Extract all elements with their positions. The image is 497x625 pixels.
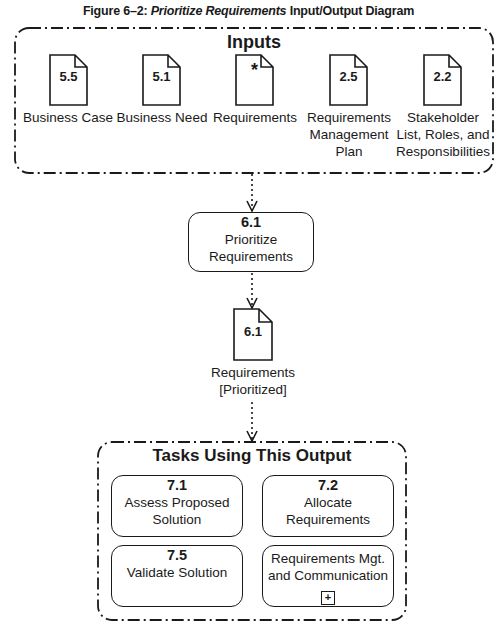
doc-number: 2.5: [330, 69, 367, 84]
task-box-requirements-mgt-communication[interactable]: Requirements Mgt. and Communication +: [262, 545, 394, 607]
doc-number: *: [236, 60, 273, 81]
doc-number: 5.1: [143, 69, 180, 84]
tasks-using-title: Tasks Using This Output: [98, 446, 406, 466]
task-number: 7.5: [112, 547, 242, 564]
task-number: 7.2: [263, 477, 393, 494]
input-label-requirements: Requirements: [205, 109, 305, 126]
diagram-shapes: [0, 0, 497, 625]
task-number: 6.1: [189, 214, 313, 231]
inputs-title: Inputs: [15, 32, 493, 53]
task-box-prioritize-requirements[interactable]: 6.1 Prioritize Requirements: [188, 212, 314, 272]
task-box-allocate-requirements[interactable]: 7.2 Allocate Requirements: [262, 475, 394, 537]
input-label-requirements-management-plan: Requirements Management Plan: [303, 109, 395, 160]
task-box-assess-proposed-solution[interactable]: 7.1 Assess Proposed Solution: [111, 475, 243, 537]
task-label: Requirements Mgt. and Communication: [263, 550, 393, 584]
task-number: 7.1: [112, 477, 242, 494]
input-label-business-need: Business Need: [111, 109, 213, 126]
output-doc-number: 6.1: [234, 324, 272, 339]
doc-number: 5.5: [50, 69, 87, 84]
task-label: Allocate Requirements: [263, 494, 393, 528]
expand-plus-icon[interactable]: +: [321, 591, 335, 605]
doc-number: 2.2: [424, 69, 461, 84]
task-label: Prioritize Requirements: [209, 232, 293, 264]
task-box-validate-solution[interactable]: 7.5 Validate Solution: [111, 545, 243, 607]
task-label: Assess Proposed Solution: [112, 494, 242, 528]
input-label-stakeholder-list: Stakeholder List, Roles, and Responsibil…: [393, 109, 493, 160]
output-label: Requirements [Prioritized]: [203, 364, 303, 398]
task-label: Validate Solution: [127, 565, 227, 580]
input-label-business-case: Business Case: [18, 109, 118, 126]
